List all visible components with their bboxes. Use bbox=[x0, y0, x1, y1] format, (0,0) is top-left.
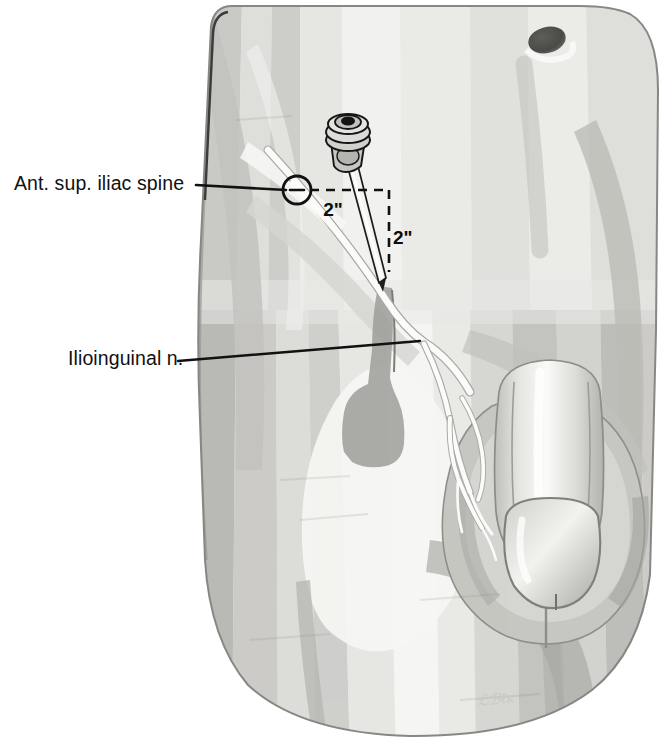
anatomy-illustration: 2" 2" Ant. sup. iliac spine Ilioinguinal… bbox=[0, 0, 670, 755]
dimension-label-horizontal: 2" bbox=[323, 199, 343, 220]
dimension-label-vertical: 2" bbox=[393, 227, 413, 248]
label-ant-sup-iliac-spine: Ant. sup. iliac spine bbox=[14, 172, 184, 194]
upper-band-right-1 bbox=[470, 0, 530, 310]
text-labels: Ant. sup. iliac spine Ilioinguinal n. bbox=[14, 172, 184, 369]
label-ilioinguinal-nerve: Ilioinguinal n. bbox=[68, 347, 183, 369]
illustration-canvas: 2" 2" Ant. sup. iliac spine Ilioinguinal… bbox=[0, 0, 670, 755]
hub-lumen bbox=[341, 117, 355, 126]
body-shading bbox=[190, 0, 670, 755]
body-illustration bbox=[190, 0, 670, 755]
upper-band-mid2 bbox=[400, 0, 472, 310]
band-left-outer bbox=[196, 300, 236, 755]
